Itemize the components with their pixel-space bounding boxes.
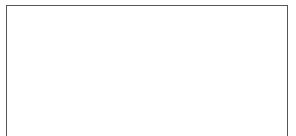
diagram-canvas: [0, 0, 296, 136]
